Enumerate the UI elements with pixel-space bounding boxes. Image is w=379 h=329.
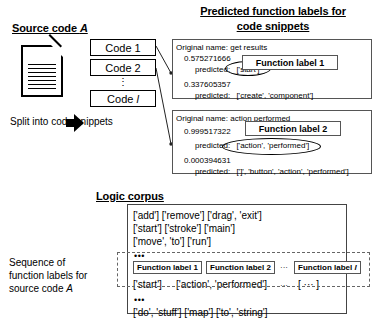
predicted-labels-heading-line2: code snippets <box>172 20 374 32</box>
source-code-heading: Source code A <box>12 22 88 34</box>
split-caption: Split into code snippets <box>10 116 113 127</box>
panel-1-original-name: Original name: get results <box>173 42 371 53</box>
sequence-caption-line3-italic: A <box>66 283 73 294</box>
corpus-dots-after-sequence: ••• <box>128 293 346 303</box>
code-snippet-vertical-dots: ⋮ <box>90 78 156 86</box>
panel-2-highlight-oval <box>222 138 321 155</box>
function-label-1-callout: Function label 1 <box>242 55 338 70</box>
sequence-caption-line3-text: source code <box>9 283 66 294</box>
source-code-heading-text: Source code <box>12 22 80 34</box>
sequence-caption-line3: source code A <box>9 283 73 294</box>
panel-1-labels-2: ['create', 'component'] <box>236 91 313 100</box>
corpus-line-2: ['start'] ['stroke'] ['main'] <box>128 222 346 235</box>
panel-2-predicted-word-2: predicted: <box>195 167 230 176</box>
document-text-lines <box>28 64 56 92</box>
panel-2-labels-2: [']', 'button', 'action', 'performed'] <box>236 167 348 176</box>
panel-2-score-2: 0.000394631 <box>173 155 371 166</box>
sequence-highlight-box <box>117 252 370 287</box>
document-icon <box>21 45 63 97</box>
sequence-caption-line1: Sequence of <box>9 257 65 268</box>
code-snippet-l-text: Code <box>107 93 136 105</box>
function-label-2-callout: Function label 2 <box>245 121 341 136</box>
code-snippet-l: Code l <box>90 90 156 107</box>
sequence-caption-line2: function labels for <box>9 270 87 281</box>
code-snippet-2: Code 2 <box>90 59 156 76</box>
corpus-line-1: ['add'] ['remove'] ['drag', 'exit'] <box>128 205 346 222</box>
panel-1-predicted-word-2: predicted: <box>195 91 230 100</box>
panel-2-prediction-2: predicted: [']', 'button', 'action', 'pe… <box>173 166 371 177</box>
logic-corpus-heading: Logic corpus <box>96 190 164 202</box>
corpus-line-bottom: ['do', 'stuff'] ['map'] ['to', 'string'] <box>128 303 346 319</box>
corpus-line-3: ['move', 'to'] ['run'] <box>128 235 346 248</box>
source-code-heading-italic: A <box>80 22 88 34</box>
predicted-labels-heading-line1: Predicted function labels for <box>172 5 374 17</box>
figure-canvas: Source code A Code 1 Code 2 ⋮ Code l Spl… <box>0 0 379 329</box>
panel-1-score-2: 0.337605357 <box>173 79 371 90</box>
panel-1-prediction-2: predicted: ['create', 'component'] <box>173 90 371 101</box>
code-snippet-1: Code 1 <box>90 39 156 56</box>
code-snippet-l-italic: l <box>136 93 138 105</box>
